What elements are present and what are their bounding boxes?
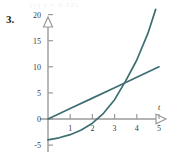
data-curves [48, 9, 159, 140]
y-axis-arrow-icon [44, 17, 53, 27]
y-axis-ticks: -505101520 [33, 11, 53, 151]
x-tick-label: 5 [157, 124, 161, 133]
figure-container: (c) x = 0.125 3. -505101520 12345 t [0, 0, 175, 160]
x-axis-arrow-icon [156, 114, 166, 124]
y-tick-label: 0 [37, 115, 41, 124]
x-tick-label: 3 [113, 124, 117, 133]
y-tick-label: 20 [33, 11, 41, 20]
y-tick-label: 15 [33, 37, 41, 46]
y-tick-label: 10 [33, 63, 41, 72]
x-tick-label: 1 [68, 124, 72, 133]
x-axis-label: t [158, 103, 161, 112]
x-tick-label: 2 [90, 124, 94, 133]
y-tick-label: -5 [34, 141, 41, 150]
problem-number: 3. [6, 13, 14, 25]
x-tick-label: 4 [135, 124, 139, 133]
curve-exponential [48, 9, 156, 140]
graph-plot: -505101520 12345 t [0, 0, 175, 160]
curve-linear [48, 67, 159, 119]
y-tick-label: 5 [37, 89, 41, 98]
faint-header-text: (c) x = 0.125 [30, 1, 79, 9]
